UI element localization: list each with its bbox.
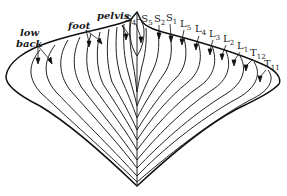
label-l3: L3 bbox=[209, 28, 220, 42]
label-s1: S1 bbox=[166, 12, 177, 26]
left-dermatome-lines bbox=[31, 22, 137, 182]
label-l5: L5 bbox=[180, 18, 191, 32]
label-foot: foot bbox=[67, 20, 91, 31]
label-l4: L4 bbox=[195, 23, 207, 37]
dermatome-diagram: low back foot pelvis S4–S5 S2 S1 L5 L4 L… bbox=[0, 0, 287, 196]
label-back: back bbox=[16, 38, 43, 49]
label-s2: S2 bbox=[154, 13, 165, 27]
label-l1: L1 bbox=[237, 40, 248, 54]
label-t11: T11 bbox=[264, 58, 280, 72]
label-l2: L2 bbox=[223, 33, 234, 47]
label-low: low bbox=[20, 27, 39, 38]
label-s4-s5: S4–S5 bbox=[125, 13, 153, 27]
